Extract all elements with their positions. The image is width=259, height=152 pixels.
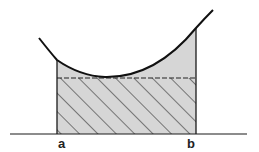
hatched-rectangle: [57, 78, 196, 134]
label-a: a: [58, 136, 66, 151]
label-b: b: [187, 136, 195, 151]
integral-diagram: a b: [0, 0, 259, 152]
